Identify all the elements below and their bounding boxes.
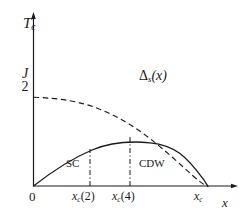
x-axis-arrowhead [231,184,238,189]
x-tick-label-xc2: xc(2) [72,190,95,202]
y-tick-j-over-2: J 2 [18,67,32,93]
delta-argument: (x) [151,68,167,83]
xc2-sub: c [77,195,80,204]
cdw-region-label: CDW [139,158,165,169]
vertical-markers-group [90,136,130,186]
y-tick-denominator: 2 [18,80,32,93]
delta-symbol: Δ [139,68,148,83]
delta-s-curve [34,97,208,186]
delta-subscript: s [148,74,151,84]
xc-sub: c [199,195,202,204]
x-tick-label-xc: xc [194,190,203,202]
axes-group [31,12,238,188]
xc4-sub: c [117,195,120,204]
xc4-paren: (4) [121,189,135,203]
phase-diagram-figure [0,0,244,216]
x-tick-label-xc4: xc(4) [112,190,135,202]
x-axis-label: x [222,196,228,209]
y-axis-label-sub: c [31,22,35,32]
tc-dome-curve [34,142,209,187]
delta-s-curve-label: Δs(x) [139,69,167,83]
sc-region-label: SC [66,158,79,169]
y-axis-label: Tc [23,16,35,31]
xc2-paren: (2) [81,189,95,203]
x-tick-label-zero: 0 [29,190,36,203]
